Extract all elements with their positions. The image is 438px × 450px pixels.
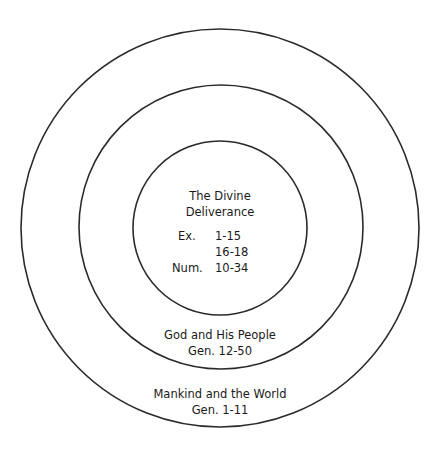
ref-row: Num.10-34 xyxy=(172,260,278,276)
outer-title: Mankind and the World xyxy=(110,386,330,402)
ref-range: 1-15 xyxy=(215,229,241,243)
ref-range: 10-34 xyxy=(215,261,248,275)
middle-title: God and His People xyxy=(120,327,320,343)
ref-row: 16-18 xyxy=(178,244,278,260)
inner-title-line1: The Divine xyxy=(170,188,270,204)
middle-ref: Gen. 12-50 xyxy=(120,343,320,359)
inner-ring-title: The Divine Deliverance xyxy=(170,188,270,220)
inner-title-line2: Deliverance xyxy=(170,204,270,220)
middle-ring-label: God and His People Gen. 12-50 xyxy=(120,327,320,359)
ref-book: Ex. xyxy=(178,228,215,244)
outer-ring-label: Mankind and the World Gen. 1-11 xyxy=(110,386,330,418)
concentric-rings xyxy=(0,0,438,450)
ref-book: Num. xyxy=(172,260,215,276)
ref-row: Ex.1-15 xyxy=(178,228,278,244)
ref-range: 16-18 xyxy=(215,245,248,259)
outer-ref: Gen. 1-11 xyxy=(110,402,330,418)
inner-ring-references: Ex.1-15 16-18 Num.10-34 xyxy=(178,228,278,276)
